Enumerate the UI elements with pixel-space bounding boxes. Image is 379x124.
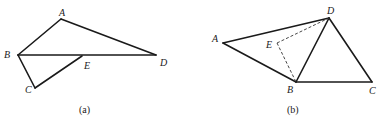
vertex-label-a-E: E [83, 60, 90, 71]
vertex-label-b-C: C [369, 85, 376, 96]
figure-b: A B C D E (b) [211, 5, 376, 116]
vertex-label-a-A: A [58, 7, 66, 18]
figure-a: A B C D E (a) [4, 7, 168, 116]
vertex-label-b-D: D [326, 5, 335, 16]
vertex-label-a-C: C [25, 84, 32, 95]
vertex-label-a-D: D [159, 57, 168, 68]
edge-b-ED-dashed [277, 18, 329, 43]
edge-a-AB [18, 19, 61, 55]
vertex-label-a-B: B [4, 49, 10, 60]
edge-b-BD [296, 18, 329, 82]
vertex-label-b-A: A [211, 33, 219, 44]
geometry-diagram: A B C D E (a) A B C D E (b) [0, 0, 379, 124]
edge-a-CE [35, 56, 82, 88]
edge-b-AB [223, 43, 296, 82]
edge-a-AD [61, 19, 156, 55]
edge-b-AD [223, 18, 329, 43]
vertex-label-b-E: E [265, 39, 272, 50]
edge-b-CD [329, 18, 372, 82]
vertex-label-b-B: B [287, 84, 293, 95]
figure-caption-b: (b) [287, 104, 299, 116]
figure-caption-a: (a) [79, 104, 90, 116]
